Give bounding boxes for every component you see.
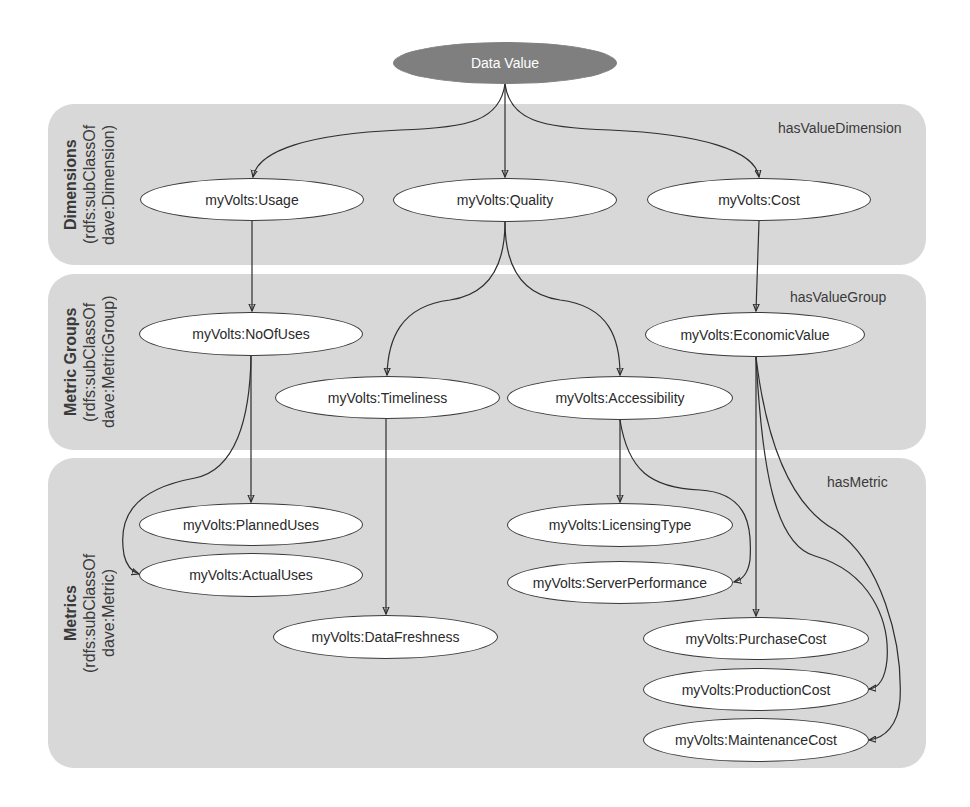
relation-label-has-value-dimension: hasValueDimension [778,120,901,136]
band-subtitle: dave:MetricGroup) [99,296,118,429]
band-label-dimensions: Dimensions (rdfs:subClassOf dave:Dimensi… [56,104,122,265]
band-label-metric-groups: Metric Groups (rdfs:subClassOf dave:Metr… [56,274,122,450]
node-cost: myVolts:Cost [647,178,871,221]
node-data-value: Data Value [393,42,617,84]
band-subtitle: (rdfs:subClassOf [80,302,99,421]
band-title: Dimensions [61,139,80,230]
band-label-metrics: Metrics (rdfs:subClassOf dave:Metric) [56,458,122,768]
relation-label-has-metric: hasMetric [827,474,888,490]
relation-label-has-value-group: hasValueGroup [790,289,886,305]
node-timeliness: myVolts:Timeliness [275,376,500,419]
node-maintenancecost: myVolts:MaintenanceCost [643,718,869,762]
node-economicvalue: myVolts:EconomicValue [645,312,865,357]
band-title: Metrics [61,585,80,641]
ontology-diagram: Dimensions (rdfs:subClassOf dave:Dimensi… [0,0,970,807]
node-quality: myVolts:Quality [393,178,617,222]
band-title: Metric Groups [61,308,80,416]
node-serverperformance: myVolts:ServerPerformance [507,561,733,604]
band-subtitle: (rdfs:subClassOf [80,553,99,672]
node-planneduses: myVolts:PlannedUses [139,503,363,546]
node-usage: myVolts:Usage [140,178,364,221]
node-datafreshness: myVolts:DataFreshness [273,615,498,659]
node-productioncost: myVolts:ProductionCost [643,668,869,711]
node-actualuses: myVolts:ActualUses [139,553,363,597]
band-subtitle: dave:Dimension) [99,124,118,244]
node-noofuses: myVolts:NoOfUses [139,312,363,356]
node-purchasecost: myVolts:PurchaseCost [643,617,869,660]
band-subtitle: (rdfs:subClassOf [80,125,99,244]
node-accessibility: myVolts:Accessibility [507,376,733,420]
band-subtitle: dave:Metric) [99,569,118,657]
node-licensingtype: myVolts:LicensingType [507,503,733,547]
